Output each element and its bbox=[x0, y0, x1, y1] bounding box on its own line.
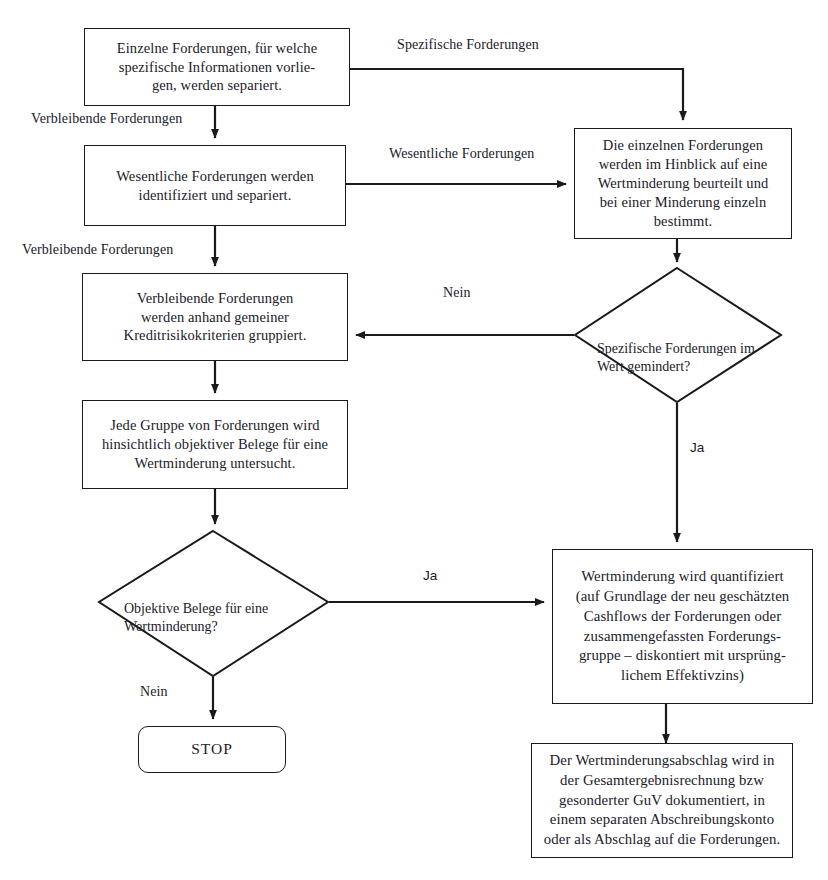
edge-label-spezifische-forderungen: Spezifische Forderungen bbox=[397, 37, 539, 54]
edge-label-text: Wesentliche Forderungen bbox=[389, 146, 534, 161]
edge-label-verbleibende-forderungen-2: Verbleibende Forderungen bbox=[22, 242, 173, 259]
node-text: STOP bbox=[191, 739, 233, 759]
node-wesentliche-forderungen[interactable]: Wesentliche Forderungen werden identifiz… bbox=[84, 145, 346, 226]
edge-label-text: Ja bbox=[423, 568, 437, 583]
node-jede-gruppe[interactable]: Jede Gruppe von Forderungen wird hinsich… bbox=[82, 400, 348, 489]
edge-label-verbleibende-forderungen-1: Verbleibende Forderungen bbox=[31, 111, 182, 128]
node-text: Die einzelnen Forderungen werden im Hinb… bbox=[598, 136, 769, 230]
flowchart-canvas: Einzelne Forderungen, für welche spezifi… bbox=[0, 0, 828, 880]
node-stop-terminator[interactable]: STOP bbox=[138, 726, 286, 773]
node-die-einzelnen-forderungen[interactable]: Die einzelnen Forderungen werden im Hinb… bbox=[574, 128, 792, 239]
node-text: Jede Gruppe von Forderungen wird hinsich… bbox=[102, 416, 328, 473]
edge-label-text: Spezifische Forderungen bbox=[397, 37, 539, 52]
node-wertminderungsabschlag[interactable]: Der Wertminderungsabschlag wird in der G… bbox=[531, 743, 793, 858]
node-text: Einzelne Forderungen, für welche spezifi… bbox=[117, 39, 317, 96]
edge-label-ja-spezifische: Ja bbox=[690, 440, 704, 456]
edge-label-wesentliche-forderungen: Wesentliche Forderungen bbox=[389, 146, 534, 163]
node-text: Wesentliche Forderungen werden identifiz… bbox=[116, 167, 314, 205]
node-spezifische-gemindert-decision[interactable] bbox=[575, 268, 781, 402]
edge-label-text: Nein bbox=[443, 285, 471, 300]
edge-label-text: Nein bbox=[140, 684, 168, 699]
edge-label-text: Verbleibende Forderungen bbox=[31, 111, 182, 126]
node-einzelne-forderungen[interactable]: Einzelne Forderungen, für welche spezifi… bbox=[84, 28, 350, 106]
node-verbleibende-forderungen[interactable]: Verbleibende Forderungen werden anhand g… bbox=[82, 273, 348, 361]
node-text: Wertminderung wird quantifiziert (auf Gr… bbox=[576, 567, 790, 686]
node-text: Der Wertminderungsabschlag wird in der G… bbox=[544, 751, 780, 850]
edge-label-text: Verbleibende Forderungen bbox=[22, 242, 173, 257]
edge-label-nein-objektive: Nein bbox=[140, 684, 168, 701]
edge-label-nein-spezifische: Nein bbox=[443, 285, 471, 302]
edge-einzelne-to-dieeinzelnen bbox=[350, 69, 683, 120]
node-text: Verbleibende Forderungen werden anhand g… bbox=[124, 289, 307, 346]
node-wertminderung-quantifiziert[interactable]: Wertminderung wird quantifiziert (auf Gr… bbox=[552, 549, 813, 704]
edge-label-ja-objektive: Ja bbox=[423, 568, 437, 584]
node-objektive-belege-decision[interactable] bbox=[99, 531, 328, 676]
edge-label-text: Ja bbox=[690, 440, 704, 455]
